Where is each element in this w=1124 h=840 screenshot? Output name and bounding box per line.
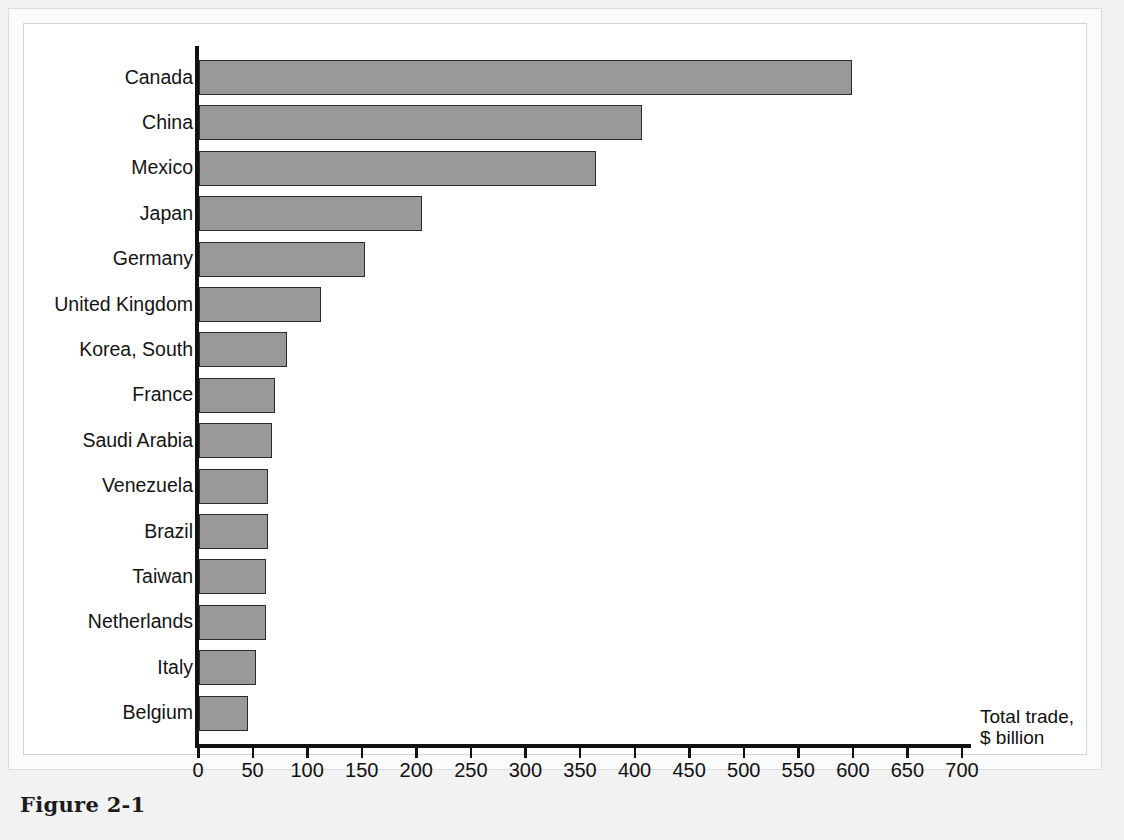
category-label-germany: Germany	[0, 249, 193, 269]
x-axis-title-line1: Total trade,	[980, 706, 1074, 727]
bar-japan	[199, 196, 422, 231]
y-axis-line	[195, 46, 199, 746]
x-tick-200	[415, 747, 418, 758]
x-tick-500	[743, 747, 746, 758]
category-label-china: China	[0, 113, 193, 133]
bar-belgium	[199, 696, 248, 731]
category-label-mexico: Mexico	[0, 158, 193, 178]
bar-taiwan	[199, 559, 266, 594]
figure-page: CanadaChinaMexicoJapanGermanyUnited King…	[0, 0, 1124, 840]
category-label-brazil: Brazil	[0, 522, 193, 542]
bar-brazil	[199, 514, 268, 549]
bar-venezuela	[199, 469, 268, 504]
x-axis-line	[195, 744, 971, 748]
x-tick-label-700: 700	[927, 760, 997, 780]
x-axis-title-line2: $ billion	[980, 727, 1074, 748]
x-tick-0	[197, 747, 200, 758]
x-tick-300	[524, 747, 527, 758]
x-tick-650	[906, 747, 909, 758]
category-label-netherlands: Netherlands	[0, 612, 193, 632]
x-tick-250	[470, 747, 473, 758]
category-label-venezuela: Venezuela	[0, 476, 193, 496]
bar-france	[199, 378, 275, 413]
x-tick-450	[688, 747, 691, 758]
bar-germany	[199, 242, 365, 277]
category-label-korea-south: Korea, South	[0, 340, 193, 360]
bar-china	[199, 105, 642, 140]
bar-korea-south	[199, 332, 287, 367]
category-label-italy: Italy	[0, 658, 193, 678]
category-label-united-kingdom: United Kingdom	[0, 295, 193, 315]
x-tick-50	[252, 747, 255, 758]
bar-chart-plot: CanadaChinaMexicoJapanGermanyUnited King…	[0, 0, 1124, 840]
bar-italy	[199, 650, 256, 685]
x-tick-550	[797, 747, 800, 758]
figure-caption: Figure 2-1	[20, 792, 146, 817]
category-label-japan: Japan	[0, 204, 193, 224]
x-tick-600	[852, 747, 855, 758]
category-label-saudi-arabia: Saudi Arabia	[0, 431, 193, 451]
x-tick-100	[306, 747, 309, 758]
bar-saudi-arabia	[199, 423, 272, 458]
category-label-france: France	[0, 385, 193, 405]
x-tick-400	[634, 747, 637, 758]
x-tick-700	[961, 747, 964, 758]
x-tick-150	[361, 747, 364, 758]
category-label-canada: Canada	[0, 68, 193, 88]
bar-united-kingdom	[199, 287, 321, 322]
bar-netherlands	[199, 605, 266, 640]
x-tick-350	[579, 747, 582, 758]
category-label-taiwan: Taiwan	[0, 567, 193, 587]
x-axis-title: Total trade, $ billion	[980, 706, 1074, 749]
bar-mexico	[199, 151, 596, 186]
bar-canada	[199, 60, 852, 95]
category-label-belgium: Belgium	[0, 703, 193, 723]
